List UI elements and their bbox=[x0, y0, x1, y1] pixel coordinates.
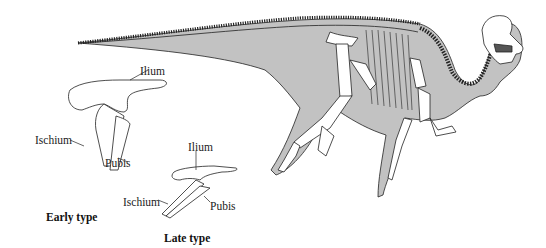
late-ischium-label: Ischium bbox=[123, 197, 160, 209]
hadrosaur-body bbox=[78, 16, 523, 197]
early-ischium-label: Ischium bbox=[35, 135, 72, 147]
late-pubis-label: Pubis bbox=[210, 201, 236, 213]
early-pubis-label: Pubis bbox=[105, 158, 131, 170]
early-ilium-label: Ilium bbox=[140, 66, 165, 78]
late-ilium-label: Ilium bbox=[188, 142, 213, 154]
late-type-caption: Late type bbox=[164, 233, 210, 245]
early-type-caption: Early type bbox=[46, 212, 97, 224]
